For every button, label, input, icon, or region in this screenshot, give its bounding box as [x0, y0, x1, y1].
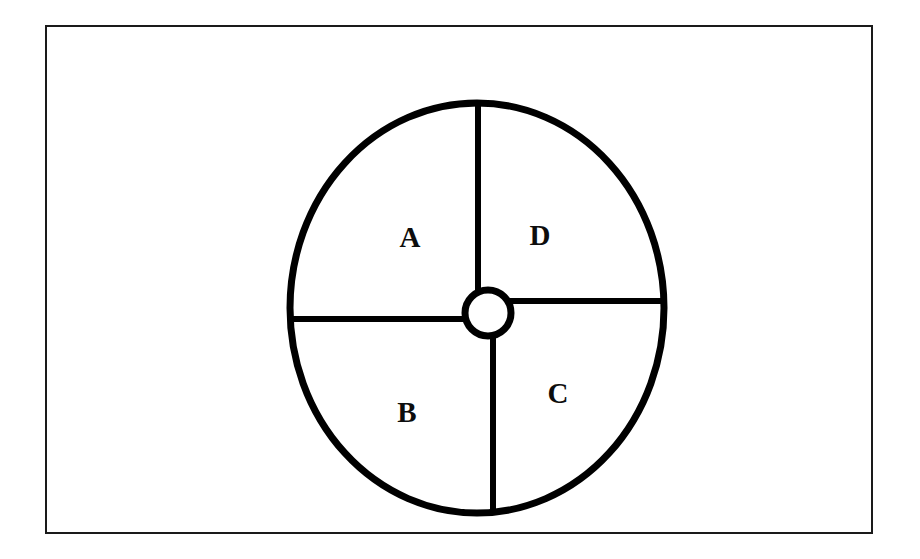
center-hub-fill	[469, 294, 508, 333]
label-a: A	[400, 221, 421, 253]
page-background	[0, 0, 920, 559]
label-b: B	[397, 396, 416, 428]
figure-page: A D B C	[0, 0, 920, 559]
quadrant-wheel-figure: A D B C	[0, 0, 920, 559]
label-c: C	[548, 377, 569, 409]
label-d: D	[530, 219, 551, 251]
